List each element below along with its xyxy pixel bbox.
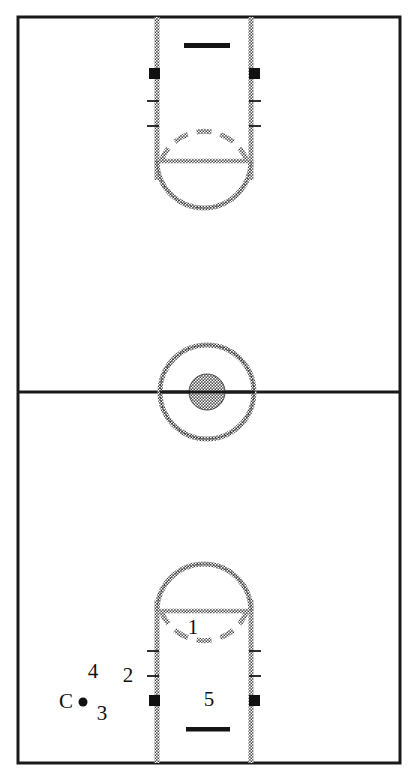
- free-throw-circle-dashed: [161, 131, 247, 161]
- free-throw-circle-dashed: [161, 611, 247, 641]
- backboard: [184, 43, 230, 48]
- position-markers-group: 1 2 3 4 5 C: [59, 615, 214, 725]
- lane-block-left: [149, 695, 160, 706]
- player-marker-3: 3: [97, 701, 108, 725]
- lane-block-left: [149, 68, 160, 79]
- court-svg: 1 2 3 4 5 C: [0, 0, 415, 776]
- coach-marker-label: C: [59, 689, 73, 713]
- lane-block-right: [249, 68, 260, 79]
- player-marker-1: 1: [188, 615, 199, 639]
- free-throw-circle-solid-edge: [157, 161, 251, 208]
- player-marker-5: 5: [204, 687, 215, 711]
- basketball-court-diagram: 1 2 3 4 5 C: [0, 0, 415, 776]
- player-marker-4: 4: [88, 659, 99, 683]
- player-marker-2: 2: [123, 663, 134, 687]
- free-throw-circle-solid: [157, 161, 251, 208]
- center-circle-group: [160, 345, 255, 439]
- free-throw-circle-solid-edge: [157, 564, 251, 611]
- backboard: [186, 727, 230, 732]
- bottom-basket-group: [147, 564, 261, 763]
- free-throw-circle-solid: [157, 564, 251, 611]
- top-basket-group: [147, 17, 261, 208]
- lane-block-right: [249, 695, 260, 706]
- ball-dot-icon: [79, 698, 88, 707]
